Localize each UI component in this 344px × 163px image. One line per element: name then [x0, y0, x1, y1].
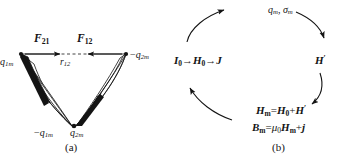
pole-dot-q2m-top	[124, 52, 128, 56]
force-21-sub: 21	[42, 37, 50, 46]
figure-root: F21 F12 r12 q1m −q2m −q1m q2m (a)	[0, 0, 344, 163]
arrow-glyph-2: →	[205, 54, 216, 66]
node-Hprime-base: H	[315, 54, 324, 66]
label-force-21: F21	[34, 33, 49, 46]
arrow-top-to-right	[296, 12, 324, 38]
node-H: H	[193, 54, 202, 66]
force-21-base: F	[34, 32, 42, 44]
arrow-left-to-top	[187, 10, 224, 42]
label-pole-q1m-top-left: q1m	[0, 57, 13, 68]
q2m-bot-sub: 2m	[75, 131, 83, 138]
arrow-right-to-bottom	[312, 73, 322, 104]
Hm-Hp-mark: ′	[304, 104, 306, 113]
label-force-12: F12	[77, 33, 92, 46]
panel-b: I0→H0→J qm, σm H′ Hm=H0+H′ Bm=μ0Hm+j (b)	[172, 0, 344, 163]
panel-a-graphics	[0, 0, 172, 163]
equation-Hm: Hm=H0+H′	[256, 105, 306, 117]
arrow-glyph-1: →	[182, 54, 193, 66]
r12-sub: 12	[64, 60, 70, 67]
label-pole-q2m-bottom: q2m	[70, 128, 83, 139]
magnet-right	[76, 54, 126, 126]
Bm-j: j	[302, 121, 305, 133]
Hm-Hp-base: H	[296, 104, 305, 116]
label-pole-q1m-bottom: −q1m	[34, 128, 53, 139]
force-12-base: F	[77, 32, 85, 44]
pole-dot-q1m-top	[19, 52, 23, 56]
Hm-base: H	[256, 104, 265, 116]
panel-b-graphics	[172, 0, 344, 163]
node-source-field: I0→H0→J	[174, 55, 222, 67]
caption-panel-a: (a)	[65, 142, 77, 153]
node-pole-density: qm, σm	[268, 5, 293, 16]
caption-panel-b: (b)	[272, 142, 285, 153]
node-demag-field: H′	[315, 55, 326, 66]
equation-Bm: Bm=μ0Hm+j	[252, 122, 305, 134]
node-J: J	[216, 54, 222, 66]
q1m-bot-sub: 1m	[45, 131, 53, 138]
q1m-sub: 1m	[5, 60, 13, 67]
Bm-Hm-base: H	[281, 121, 290, 133]
q2m-top-sub: 2m	[141, 53, 149, 60]
Hm-H0-base: H	[277, 104, 286, 116]
panel-a: F21 F12 r12 q1m −q2m −q1m q2m (a)	[0, 0, 172, 163]
node-sigma-sub: m	[288, 8, 293, 15]
force-12-sub: 12	[85, 37, 93, 46]
node-Hprime-mark: ′	[324, 54, 326, 63]
arrow-bottom-to-left	[190, 88, 232, 120]
label-distance-r12: r12	[60, 58, 70, 68]
label-pole-q2m-top-right: −q2m	[130, 50, 149, 61]
